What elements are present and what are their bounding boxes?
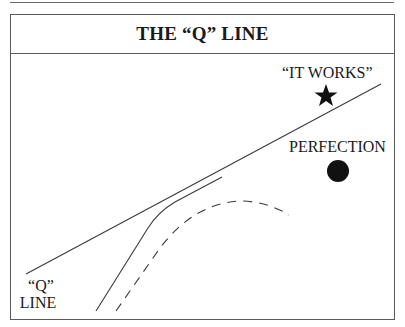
star-icon bbox=[315, 84, 338, 106]
dashed-curve bbox=[116, 201, 289, 311]
it-works-label: “IT WORKS” bbox=[282, 64, 373, 82]
q-line-label-top: “Q” bbox=[20, 277, 62, 295]
q-line bbox=[26, 84, 381, 274]
perfection-label: PERFECTION bbox=[289, 138, 386, 156]
circle-icon bbox=[327, 160, 349, 182]
q-line-label-bottom: LINE bbox=[17, 294, 59, 312]
solid-curve bbox=[96, 177, 222, 311]
